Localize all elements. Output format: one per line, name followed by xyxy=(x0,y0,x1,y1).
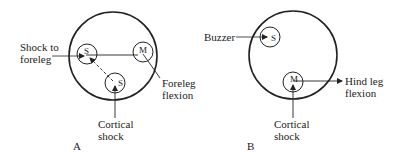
panel-b-output-label-line2: flexion xyxy=(345,88,376,99)
panel-b-input-label: Buzzer xyxy=(204,32,235,43)
panel-a-cortical-s-symbol: S xyxy=(118,78,123,89)
panel-a-dashed-arrow xyxy=(90,58,113,81)
panel-a-title: A xyxy=(73,140,81,152)
panel-b-cortical-label-line2: shock xyxy=(274,131,300,142)
panel-a-input-label-line2: foreleg xyxy=(20,54,51,65)
panel-a-m-symbol: M xyxy=(139,45,147,56)
panel-a-cortical-label-line1: Cortical xyxy=(98,119,133,130)
panel-a-output-label-line2: flexion xyxy=(162,90,193,101)
panel-b-title: B xyxy=(247,140,254,152)
panel-b-output-label-line1: Hind leg xyxy=(345,76,383,87)
panel-b-m-symbol: M xyxy=(290,74,298,85)
panel-a-input-label-line1: Shock to xyxy=(20,42,59,53)
panel-a-cortical-label-line2: shock xyxy=(98,131,124,142)
panel-a-output-label-line1: Foreleg xyxy=(162,78,196,89)
panel-a-s-symbol: S xyxy=(84,46,89,57)
panel-b-diagram xyxy=(236,11,342,118)
panel-b-s-symbol: S xyxy=(271,33,276,44)
panel-b-cortical-label-line1: Cortical xyxy=(274,119,309,130)
panel-a-diagram xyxy=(52,12,160,118)
